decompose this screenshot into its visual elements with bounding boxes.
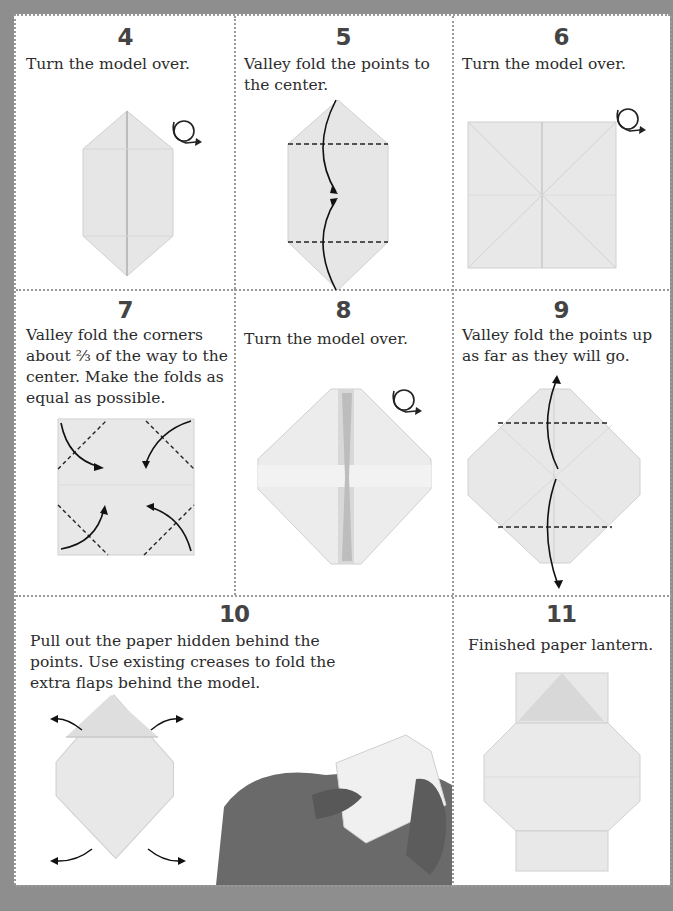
turn-over-icon — [388, 385, 428, 425]
step-number: 10 — [16, 601, 452, 627]
step-4: 4 Turn the model over. — [16, 16, 234, 289]
step-5: 5 Valley fold the points to the center. — [234, 16, 452, 289]
step-text: Pull out the paper hidden behind the poi… — [30, 631, 370, 694]
step-6: 6 Turn the model over. — [452, 16, 670, 289]
step-9: 9 Valley fold the points up as far as th… — [452, 289, 670, 595]
step-number: 7 — [16, 297, 234, 323]
pull-out-arrows — [46, 715, 206, 865]
step-number: 6 — [452, 24, 670, 50]
step-11: 11 Finished paper lantern. — [452, 595, 670, 885]
paper-model-image — [80, 111, 180, 281]
step-text: Turn the model over. — [26, 54, 231, 75]
paper-model-image — [288, 100, 398, 296]
step-10: 10 Pull out the paper hidden behind the … — [16, 595, 452, 885]
step-text: Turn the model over. — [244, 329, 444, 350]
step-number: 4 — [16, 24, 234, 50]
paper-model-image — [482, 673, 652, 873]
turn-over-icon — [168, 116, 208, 156]
step-text: Valley fold the corners about ⅔ of the w… — [26, 325, 231, 409]
step-number: 8 — [234, 297, 452, 323]
paper-model-image — [468, 122, 618, 272]
step-text: Turn the model over. — [462, 54, 662, 75]
instruction-page: 4 Turn the model over. 5 Valley fold the… — [14, 14, 670, 885]
paper-model-image — [462, 389, 652, 589]
step-number: 11 — [452, 601, 670, 627]
paper-model-image — [58, 419, 198, 559]
bottom-border — [16, 885, 672, 887]
right-border — [670, 16, 672, 887]
step-number: 9 — [452, 297, 670, 323]
turn-over-icon — [612, 104, 652, 144]
step-text: Valley fold the points up as far as they… — [462, 325, 667, 367]
hands-photo — [216, 735, 452, 885]
step-number: 5 — [234, 24, 452, 50]
step-text: Finished paper lantern. — [468, 635, 668, 656]
step-7: 7 Valley fold the corners about ⅔ of the… — [16, 289, 234, 595]
step-text: Valley fold the points to the center. — [244, 54, 444, 96]
step-8: 8 Turn the model over. — [234, 289, 452, 595]
